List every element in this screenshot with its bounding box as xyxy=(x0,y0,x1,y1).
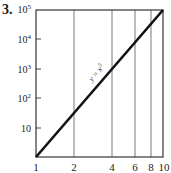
log-log-chart: y = x5 105 104 103 102 10 1 2 4 6 8 10 xyxy=(0,0,171,173)
svg-text:103: 103 xyxy=(18,63,32,75)
svg-text:1: 1 xyxy=(33,161,39,173)
svg-text:10: 10 xyxy=(21,123,31,134)
svg-text:4: 4 xyxy=(109,161,115,173)
svg-text:105: 105 xyxy=(18,3,32,15)
svg-text:10: 10 xyxy=(159,161,171,173)
svg-text:6: 6 xyxy=(132,161,138,173)
svg-text:2: 2 xyxy=(71,161,77,173)
grid-lines xyxy=(74,10,151,157)
x-tick-labels: 1 2 4 6 8 10 xyxy=(33,161,170,173)
svg-text:8: 8 xyxy=(148,161,154,173)
y-tick-labels: 105 104 103 102 10 xyxy=(18,3,32,134)
svg-text:104: 104 xyxy=(18,33,32,45)
svg-text:102: 102 xyxy=(18,92,32,104)
series-line-y-equals-x5 xyxy=(36,10,163,157)
y-ticks xyxy=(36,39,41,128)
